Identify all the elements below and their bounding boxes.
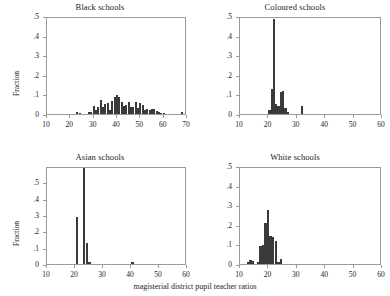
y-tick-mark: [43, 183, 46, 184]
x-tick-label: 10: [228, 120, 250, 129]
y-tick-label: .1: [211, 240, 232, 249]
y-tick-label: .1: [211, 90, 232, 99]
panel-title-black-schools: Black schools: [20, 2, 180, 12]
y-tick-mark: [43, 37, 46, 38]
y-tick-mark: [236, 187, 239, 188]
x-tick-mark: [381, 115, 382, 118]
y-tick-label: .3: [18, 211, 39, 220]
x-tick-mark: [239, 115, 240, 118]
panel-white-schools: White schools 0.1.2.3.4.5 102030405060: [195, 148, 390, 296]
y-tick-label: 0: [18, 110, 39, 119]
x-tick-label: 40: [105, 120, 127, 129]
x-tick-label: 60: [175, 270, 197, 279]
x-tick-mark: [381, 265, 382, 268]
x-tick-label: 40: [119, 270, 141, 279]
y-tick-label: .2: [18, 71, 39, 80]
x-tick-mark: [353, 115, 354, 118]
y-tick-mark: [43, 17, 46, 18]
y-tick-label: .3: [211, 51, 232, 60]
histogram-bar: [88, 262, 91, 264]
x-tick-mark: [186, 265, 187, 268]
x-tick-mark: [93, 115, 94, 118]
panel-black-schools: Black schools Fraction 0.1.2.3.4.5 10203…: [0, 0, 195, 148]
histogram-figure: Black schools Fraction 0.1.2.3.4.5 10203…: [0, 0, 390, 296]
y-tick-mark: [43, 249, 46, 250]
x-tick-label: 70: [175, 120, 197, 129]
x-tick-mark: [74, 265, 75, 268]
histogram-bar: [131, 262, 134, 264]
x-tick-mark: [69, 115, 70, 118]
x-tick-mark: [158, 265, 159, 268]
y-tick-label: .2: [211, 221, 232, 230]
x-tick-label: 50: [128, 120, 150, 129]
y-tick-label: .5: [211, 12, 232, 21]
histogram-bar: [76, 217, 79, 264]
y-tick-mark: [236, 206, 239, 207]
histogram-bar: [280, 259, 282, 264]
x-tick-mark: [186, 115, 187, 118]
histogram-bar: [275, 241, 277, 264]
panel-title-white-schools: White schools: [215, 152, 375, 162]
x-tick-label: 30: [285, 120, 307, 129]
y-tick-mark: [236, 17, 239, 18]
histogram-bar: [181, 112, 183, 114]
bars-asian-schools: [47, 168, 185, 264]
histogram-bar: [79, 113, 81, 114]
figure-x-axis-label: magisterial district pupil teacher ratio…: [0, 282, 390, 291]
y-tick-mark: [236, 56, 239, 57]
x-tick-mark: [296, 115, 297, 118]
x-tick-label: 50: [342, 120, 364, 129]
x-tick-mark: [130, 265, 131, 268]
y-tick-label: .1: [18, 90, 39, 99]
x-tick-label: 60: [370, 270, 390, 279]
x-tick-label: 50: [147, 270, 169, 279]
panel-coloured-schools: Coloured schools 0.1.2.3.4.5 10203040506…: [195, 0, 390, 148]
x-tick-label: 10: [35, 120, 57, 129]
y-tick-label: .1: [18, 244, 39, 253]
y-tick-label: 0: [211, 260, 232, 269]
y-tick-mark: [236, 167, 239, 168]
y-tick-mark: [236, 95, 239, 96]
y-tick-label: 0: [18, 260, 39, 269]
y-tick-label: .5: [18, 178, 39, 187]
plot-area-black-schools: [46, 17, 186, 115]
y-tick-label: .4: [18, 195, 39, 204]
x-tick-label: 60: [370, 120, 390, 129]
x-tick-label: 20: [256, 120, 278, 129]
bars-coloured-schools: [240, 18, 380, 114]
y-tick-mark: [43, 216, 46, 217]
y-tick-mark: [236, 37, 239, 38]
x-tick-mark: [239, 265, 240, 268]
x-tick-mark: [163, 115, 164, 118]
histogram-bar: [287, 112, 289, 114]
x-tick-mark: [324, 265, 325, 268]
bars-white-schools: [240, 168, 380, 264]
x-tick-label: 30: [285, 270, 307, 279]
x-tick-label: 30: [91, 270, 113, 279]
plot-area-coloured-schools: [239, 17, 381, 115]
panel-title-coloured-schools: Coloured schools: [215, 2, 375, 12]
plot-area-asian-schools: [46, 167, 186, 265]
y-tick-mark: [43, 56, 46, 57]
y-tick-label: .4: [211, 182, 232, 191]
x-tick-mark: [353, 265, 354, 268]
y-tick-label: .3: [18, 51, 39, 60]
plot-area-white-schools: [239, 167, 381, 265]
x-tick-mark: [46, 265, 47, 268]
x-tick-mark: [139, 115, 140, 118]
x-tick-label: 10: [35, 270, 57, 279]
y-tick-mark: [43, 76, 46, 77]
x-tick-label: 60: [152, 120, 174, 129]
y-tick-label: .2: [211, 71, 232, 80]
panel-asian-schools: Asian schools Fraction 0.1.2.3.4.5 10203…: [0, 148, 195, 296]
y-tick-label: .4: [18, 32, 39, 41]
x-tick-label: 10: [228, 270, 250, 279]
y-tick-mark: [236, 245, 239, 246]
y-tick-label: .5: [211, 162, 232, 171]
x-tick-label: 40: [313, 270, 335, 279]
x-tick-label: 50: [342, 270, 364, 279]
x-tick-label: 40: [313, 120, 335, 129]
y-tick-mark: [43, 200, 46, 201]
histogram-bar: [301, 106, 303, 114]
x-tick-label: 20: [63, 270, 85, 279]
